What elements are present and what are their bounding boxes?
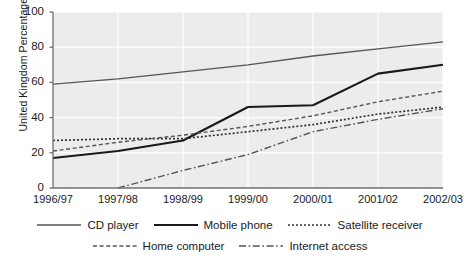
legend-item[interactable]: Home computer [92,240,225,252]
legend-item-label: CD player [87,219,138,231]
chart-legend: CD playerMobile phoneSatellite receiver … [0,214,459,256]
legend-item-label: Internet access [289,240,367,252]
legend-swatch-solid-thick [153,219,199,231]
legend-swatch-dotted [287,219,333,231]
legend-item-label: Mobile phone [204,219,273,231]
legend-swatch-dashed [92,240,138,252]
legend-item[interactable]: Satellite receiver [287,219,423,231]
legend-row-2: Home computerInternet access [0,235,459,256]
legend-swatch-dash-dot [238,240,284,252]
legend-item[interactable]: Mobile phone [153,219,273,231]
legend-swatch-solid-thin [36,219,82,231]
legend-row-1: CD playerMobile phoneSatellite receiver [0,214,459,235]
legend-item[interactable]: Internet access [238,240,367,252]
plot-area [0,0,459,200]
legend-item-label: Satellite receiver [338,219,423,231]
legend-item-label: Home computer [143,240,225,252]
legend-item[interactable]: CD player [36,219,138,231]
